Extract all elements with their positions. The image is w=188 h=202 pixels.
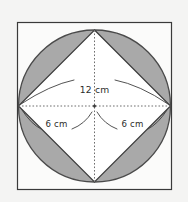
radius-left-label: 6 cm xyxy=(45,119,67,129)
center-point-dot xyxy=(93,105,96,108)
geometry-figure-svg: 12 cm 6 cm 6 cm xyxy=(0,0,188,202)
radius-right-label: 6 cm xyxy=(121,119,143,129)
diameter-label: 12 cm xyxy=(80,84,110,95)
geometry-figure-container: 12 cm 6 cm 6 cm xyxy=(0,0,188,202)
